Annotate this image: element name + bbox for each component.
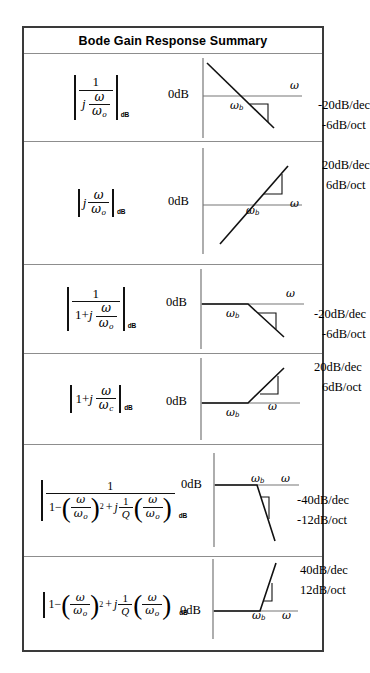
fraction-numerator: 1 <box>90 75 103 90</box>
math-expression: 1− ( ω ωo ) 2 + j 1 <box>40 592 187 619</box>
formula-cell-inverse-integrator: 1 j ω ωo dB <box>24 75 174 119</box>
table-row: 1 1+j ω ωo dB <box>24 265 322 354</box>
fraction: 1 1+j ω ωo <box>72 287 120 331</box>
omega-axis-label: ω <box>290 79 299 92</box>
slope-octave-label: 12dB/oct <box>300 583 346 598</box>
zero-db-label: 0dB <box>168 194 189 209</box>
one-minus: 1− <box>48 597 61 612</box>
abs-bar-left <box>67 287 69 331</box>
graph-single-pole: 0dB ω ωb -20dB/dec -6dB/oct <box>174 265 322 353</box>
plus-sign: + <box>104 501 115 514</box>
omega-ratio: ω ωc <box>96 385 117 414</box>
table-row: 1 j ω ωo dB <box>24 54 322 142</box>
paren-close: ) <box>163 500 172 516</box>
formula-cell-differentiator: j ω ωo dB <box>24 189 174 218</box>
omega-ratio: ω ωo <box>143 494 163 521</box>
zero-db-label: 0dB <box>168 87 189 102</box>
omega-symbol: ω <box>98 385 114 398</box>
omega-symbol: ω <box>98 302 114 315</box>
corner-frequency-label: ωb <box>226 307 239 320</box>
paren-close: ) <box>162 597 171 613</box>
one-plus: 1+ <box>75 391 89 407</box>
corner-frequency-label: ωb <box>246 204 259 217</box>
slope-decade-label: -20dB/dec <box>318 98 370 113</box>
numerator-one: 1 <box>120 592 132 604</box>
abs-bar-left <box>78 189 80 218</box>
omega-ratio: ω ωo <box>71 494 91 521</box>
bode-plot-svg <box>200 269 320 351</box>
omega-zero: ωo <box>89 105 110 119</box>
numerator-one: 1 <box>120 495 132 507</box>
formula-cell-single-zero: 1+ j ω ωc dB <box>24 385 174 414</box>
zero-db-label: 0dB <box>166 295 187 310</box>
abs-bar-right <box>123 287 125 331</box>
corner-frequency-label: ωb <box>226 406 239 419</box>
omega-zero: ωo <box>143 508 163 521</box>
slope-decade-label: 40dB/dec <box>300 563 348 578</box>
fraction: 1 1− ( ω ωo ) 2 + <box>46 480 175 521</box>
j-symbol: j <box>114 597 117 612</box>
j-symbol: j <box>82 96 86 111</box>
db-subscript: dB <box>179 512 187 521</box>
corner-frequency-label: ωb <box>230 99 243 112</box>
omega-symbol: ω <box>73 494 88 506</box>
omega-symbol: ω <box>91 189 107 202</box>
graph-two-zero: 0dB ω ωb 40dB/dec 12dB/oct <box>202 557 322 653</box>
one-over-q: 1 Q <box>119 495 133 521</box>
fraction-numerator: 1 <box>104 480 116 493</box>
omega-ratio: ω ωo <box>89 91 110 120</box>
expression-body: 1− ( ω ωo ) 2 + j 1 <box>48 592 171 619</box>
one-over-q: 1 Q <box>118 592 132 618</box>
db-subscript: dB <box>128 322 136 331</box>
omega-zero: ωo <box>96 317 117 331</box>
abs-bar-right <box>112 189 114 218</box>
paren-open: ( <box>134 500 143 516</box>
slope-decade-label: 20dB/dec <box>322 158 370 173</box>
table-title-row: Bode Gain Response Summary <box>24 28 322 54</box>
graph-single-zero: 0dB ω ωb 20dB/dec 6dB/oct <box>174 354 322 444</box>
omega-axis-label: ω <box>290 197 299 210</box>
bode-plot-svg <box>200 358 320 442</box>
slope-decade-label: 20dB/dec <box>314 360 362 375</box>
math-expression: j ω ωo dB <box>75 189 126 218</box>
corner-frequency-label: ωb <box>251 472 264 485</box>
slope-octave-label: -6dB/oct <box>322 327 366 342</box>
paren-close: ) <box>90 597 99 613</box>
table-row: 1− ( ω ωo ) 2 + j 1 <box>24 557 322 653</box>
omega-zero: ωo <box>142 605 162 618</box>
slope-octave-label: 6dB/oct <box>326 178 366 193</box>
omega-ratio: ω ωo <box>142 592 162 619</box>
table-row: 1+ j ω ωc dB 0dB <box>24 354 322 445</box>
graph-two-pole: 0dB ω ωb -40dB/dec -12dB/oct <box>199 445 322 556</box>
q-symbol: Q <box>118 605 132 617</box>
formula-cell-two-zero: 1− ( ω ωo ) 2 + j 1 <box>24 592 202 619</box>
fraction: 1 j ω ωo <box>79 75 113 119</box>
page-title: Bode Gain Response Summary <box>79 34 268 48</box>
abs-bar-right <box>116 75 118 119</box>
omega-symbol: ω <box>91 91 107 104</box>
one-minus: 1− <box>49 501 62 514</box>
j-symbol: j <box>114 501 117 514</box>
omega-zero: ωo <box>71 508 91 521</box>
abs-bar-left <box>74 75 76 119</box>
j-symbol: j <box>89 308 93 323</box>
abs-bar-left <box>70 385 72 414</box>
graph-differentiator: 0dB ω ωb 20dB/dec 6dB/oct <box>174 142 322 264</box>
omega-axis-label: ω <box>281 472 290 485</box>
formula-cell-single-pole: 1 1+j ω ωo dB <box>24 287 174 331</box>
fraction-numerator: 1 <box>90 287 103 302</box>
q-symbol: Q <box>119 508 133 520</box>
math-expression: 1 1− ( ω ωo ) 2 + <box>38 480 187 521</box>
omega-corner: ωc <box>96 399 117 413</box>
omega-zero: ωo <box>88 203 109 217</box>
omega-symbol: ω <box>73 592 88 604</box>
j-symbol: j <box>89 391 93 407</box>
db-subscript: dB <box>117 208 125 217</box>
omega-axis-label: ω <box>286 287 295 300</box>
one-plus: 1+ <box>75 308 89 323</box>
j-symbol: j <box>83 195 87 211</box>
omega-axis-label: ω <box>268 400 277 413</box>
omega-axis-label: ω <box>282 609 291 622</box>
abs-bar-right <box>119 385 121 414</box>
plus-sign: + <box>103 597 114 612</box>
